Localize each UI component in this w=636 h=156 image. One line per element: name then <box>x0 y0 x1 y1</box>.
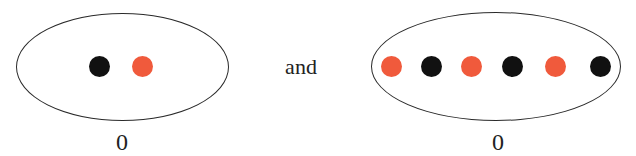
right-black-dot-2 <box>502 56 523 77</box>
right-black-dot-1 <box>421 56 442 77</box>
right-red-dot-2 <box>461 56 482 77</box>
right-red-dot-1 <box>381 56 402 77</box>
left-red-dot <box>132 56 153 77</box>
connector-word: and <box>285 56 317 78</box>
right-ellipse <box>371 12 621 121</box>
right-label: 0 <box>492 130 504 154</box>
right-red-dot-3 <box>545 56 566 77</box>
left-label: 0 <box>116 130 128 154</box>
left-black-dot <box>89 56 110 77</box>
right-black-dot-3 <box>590 56 611 77</box>
left-ellipse <box>16 13 229 121</box>
